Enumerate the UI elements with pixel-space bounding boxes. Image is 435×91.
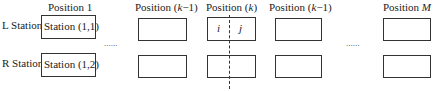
- station-box-1-2: Station (1,2): [41, 53, 96, 77]
- ellipsis-right: ......: [346, 38, 360, 48]
- header-suffix: ): [253, 1, 257, 13]
- station-box-k-minus-1-left-top: [138, 18, 187, 41]
- header-position-k-minus-1-right: Position (k−1): [269, 1, 332, 13]
- station-box-M-bottom: [383, 55, 431, 78]
- station-box-k-minus-1-right-bottom: [275, 55, 322, 78]
- dashed-divider-line: [229, 15, 230, 89]
- row-label-l-station: L Station: [2, 19, 42, 31]
- station-label: Station (1,2): [44, 58, 99, 70]
- station-box-M-top: [383, 18, 431, 41]
- var-j: j: [239, 22, 242, 34]
- header-prefix: Position (: [135, 1, 177, 13]
- ellipsis-left: ......: [104, 38, 118, 48]
- station-label: Station (1,1): [44, 20, 99, 32]
- station-box-k-top: i j: [207, 17, 256, 41]
- header-prefix: Position (: [206, 1, 248, 13]
- header-position-M: Position M: [383, 1, 431, 13]
- header-position-k-minus-1-left: Position (k−1): [135, 1, 198, 13]
- station-box-k-minus-1-right-top: [275, 18, 322, 41]
- station-box-k-minus-1-left-bottom: [138, 55, 187, 78]
- header-position-1: Position 1: [48, 1, 92, 13]
- header-suffix: −1): [182, 1, 197, 13]
- header-var: M: [422, 1, 431, 13]
- header-suffix: −1): [316, 1, 331, 13]
- header-position-k: Position (k): [206, 1, 257, 13]
- header-prefix: Position (: [269, 1, 311, 13]
- row-label-r-station: R Station: [2, 57, 43, 69]
- var-i: i: [217, 22, 220, 34]
- station-box-k-bottom: [207, 55, 256, 78]
- station-box-1-1: Station (1,1): [41, 15, 96, 39]
- header-prefix: Position: [383, 1, 422, 13]
